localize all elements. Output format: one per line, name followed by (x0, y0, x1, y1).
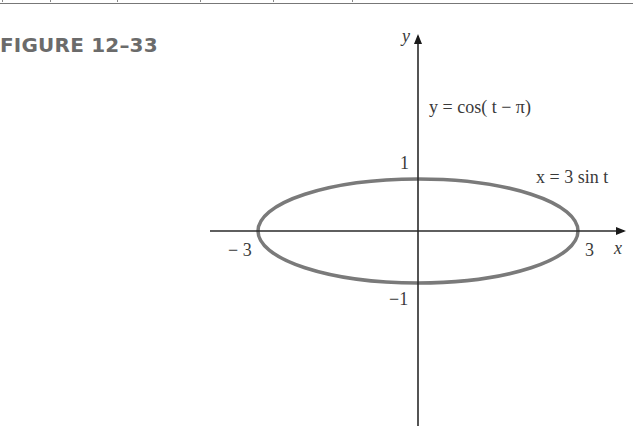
y-axis-label: y (400, 26, 410, 46)
tick-x-pos3: 3 (585, 240, 594, 260)
tick-y-pos1: 1 (400, 153, 409, 173)
equation-y: y = cos( t − π) (429, 97, 531, 118)
x-axis-label: x (613, 238, 622, 258)
parametric-plot: y x − 3 3 1 −1 y = cos( t − π) x = 3 sin… (0, 0, 633, 426)
tick-y-neg1: −1 (389, 289, 408, 309)
tick-x-neg3: − 3 (228, 240, 252, 260)
equation-x: x = 3 sin t (536, 167, 608, 187)
